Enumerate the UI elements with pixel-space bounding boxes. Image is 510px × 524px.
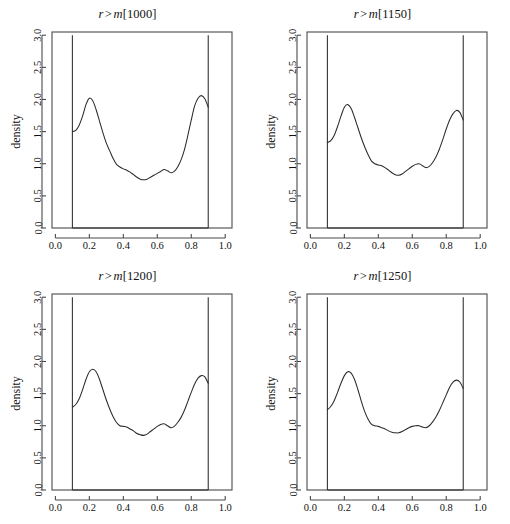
x-axis-tick-label: 1.0: [219, 502, 232, 513]
y-axis-tick-label: 3.0: [288, 29, 299, 42]
y-axis-tick-label: 0.5: [33, 189, 44, 202]
x-axis-tick-label: 0.2: [338, 240, 351, 251]
y-axis-tick-label: 1.0: [288, 419, 299, 432]
x-axis-tick-label: 0.0: [304, 240, 317, 251]
plot-frame: [307, 32, 487, 228]
y-axis-tick-label: 2.5: [288, 61, 299, 74]
y-axis-tick-label: 3.0: [33, 29, 44, 42]
x-axis-tick-label: 0.0: [304, 502, 317, 513]
y-axis-tick-label: 1.0: [33, 157, 44, 170]
plot-canvas-3: 0.00.51.01.52.02.53.00.00.20.40.60.81.0: [0, 262, 255, 524]
y-axis-tick-label: 2.5: [33, 61, 44, 74]
y-axis-tick-label: 0.0: [288, 483, 299, 496]
y-axis-tick-label: 0.0: [33, 221, 44, 234]
x-axis-tick-label: 0.4: [372, 502, 386, 513]
y-axis-tick-label: 0.0: [33, 483, 44, 496]
x-axis-tick-label: 1.0: [219, 240, 232, 251]
y-axis-tick-label: 2.0: [33, 355, 44, 368]
y-axis-tick-label: 2.5: [33, 323, 44, 336]
density-panel-3: r>m[1200] density 0.00.51.01.52.02.53.00…: [0, 262, 255, 524]
x-axis-tick-label: 0.6: [151, 502, 164, 513]
x-axis-tick-label: 0.6: [151, 240, 164, 251]
x-axis-tick-label: 0.2: [338, 502, 351, 513]
y-axis-tick-label: 3.0: [288, 291, 299, 304]
plot-frame: [52, 32, 232, 228]
density-panel-2: r>m[1150] density 0.00.51.01.52.02.53.00…: [255, 0, 510, 262]
y-axis-tick-label: 1.5: [288, 125, 299, 138]
y-axis-tick-label: 0.5: [288, 451, 299, 464]
y-axis-tick-label: 0.5: [288, 189, 299, 202]
plot-canvas-1: 0.00.51.01.52.02.53.00.00.20.40.60.81.0: [0, 0, 255, 262]
density-panel-4: r>m[1250] density 0.00.51.01.52.02.53.00…: [255, 262, 510, 524]
x-axis-tick-label: 0.0: [49, 240, 62, 251]
x-axis-tick-label: 0.4: [117, 240, 131, 251]
y-axis-tick-label: 1.5: [33, 387, 44, 400]
y-axis-tick-label: 1.5: [288, 387, 299, 400]
x-axis-tick-label: 1.0: [474, 240, 487, 251]
x-axis-tick-label: 0.8: [440, 502, 453, 513]
y-axis-tick-label: 3.0: [33, 291, 44, 304]
x-axis-tick-label: 0.4: [372, 240, 386, 251]
y-axis-tick-label: 1.5: [33, 125, 44, 138]
x-axis-tick-label: 0.6: [406, 240, 419, 251]
plot-canvas-2: 0.00.51.01.52.02.53.00.00.20.40.60.81.0: [255, 0, 510, 262]
y-axis-tick-label: 0.0: [288, 221, 299, 234]
y-axis-tick-label: 2.5: [288, 323, 299, 336]
y-axis-tick-label: 1.0: [288, 157, 299, 170]
plot-frame: [52, 294, 232, 490]
plot-canvas-4: 0.00.51.01.52.02.53.00.00.20.40.60.81.0: [255, 262, 510, 524]
y-axis-tick-label: 2.0: [33, 93, 44, 106]
y-axis-tick-label: 2.0: [288, 355, 299, 368]
y-axis-tick-label: 1.0: [33, 419, 44, 432]
x-axis-tick-label: 0.8: [185, 240, 198, 251]
density-curve: [72, 96, 208, 180]
density-plot-grid: r>m[1000] density 0.00.51.01.52.02.53.00…: [0, 0, 510, 524]
y-axis-tick-label: 2.0: [288, 93, 299, 106]
density-curve: [327, 372, 463, 433]
x-axis-tick-label: 0.8: [185, 502, 198, 513]
plot-frame: [307, 294, 487, 490]
y-axis-tick-label: 0.5: [33, 451, 44, 464]
density-panel-1: r>m[1000] density 0.00.51.01.52.02.53.00…: [0, 0, 255, 262]
x-axis-tick-label: 0.0: [49, 502, 62, 513]
x-axis-tick-label: 0.4: [117, 502, 131, 513]
x-axis-tick-label: 1.0: [474, 502, 487, 513]
x-axis-tick-label: 0.2: [83, 502, 96, 513]
x-axis-tick-label: 0.2: [83, 240, 96, 251]
x-axis-tick-label: 0.8: [440, 240, 453, 251]
density-curve: [327, 105, 463, 176]
x-axis-tick-label: 0.6: [406, 502, 419, 513]
density-curve: [72, 369, 208, 435]
